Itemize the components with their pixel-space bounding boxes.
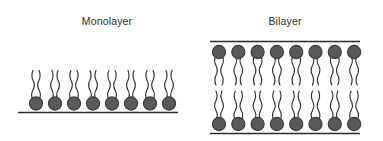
lipid-head (48, 97, 61, 110)
lipid-head (124, 97, 137, 110)
lipid-head (270, 117, 283, 130)
lipid-diagram-figure: Monolayer Bilayer (0, 0, 383, 141)
lipid-head (162, 97, 175, 110)
lipid-head (251, 45, 264, 58)
monolayer-label: Monolayer (82, 15, 133, 27)
lipid-head (29, 97, 42, 110)
lipid-head (348, 45, 361, 58)
lipid-head (328, 45, 341, 58)
lipid-head (270, 45, 283, 58)
lipid-head (251, 117, 264, 130)
lipid-head (328, 117, 341, 130)
lipid-head (290, 117, 303, 130)
lipid-head (212, 117, 225, 130)
lipid-head (290, 45, 303, 58)
lipid-head (309, 45, 322, 58)
lipid-diagram-canvas: Monolayer Bilayer (0, 0, 383, 141)
lipid-head (67, 97, 80, 110)
lipid-head (348, 117, 361, 130)
lipid-head (105, 97, 118, 110)
lipid-head (143, 97, 156, 110)
lipid-head (86, 97, 99, 110)
lipid-head (309, 117, 322, 130)
lipid-head (232, 117, 245, 130)
lipid-head (212, 45, 225, 58)
bilayer-label: Bilayer (268, 15, 301, 27)
lipid-head (232, 45, 245, 58)
